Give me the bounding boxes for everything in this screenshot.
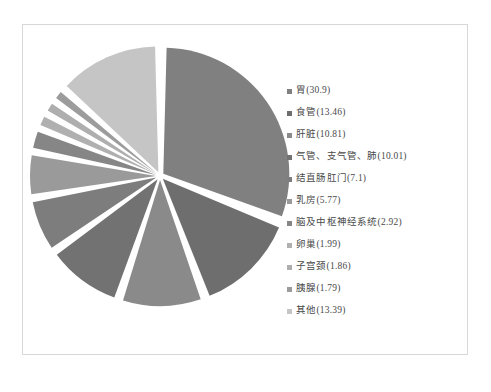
legend-swatch-icon xyxy=(287,221,292,226)
legend-item[interactable]: 子宫颈(1.86) xyxy=(287,256,467,278)
legend-item[interactable]: 气管、支气管、肺(10.01) xyxy=(287,146,467,168)
legend-item-label: 结直肠肛门(7.1) xyxy=(296,174,366,184)
legend-item-label: 胰腺(1.79) xyxy=(296,284,341,294)
legend-item[interactable]: 胰腺(1.79) xyxy=(287,278,467,300)
legend-swatch-icon xyxy=(287,89,292,94)
legend-item-label: 卵巢(1.99) xyxy=(296,240,341,250)
chart-legend: 胃(30.9)食管(13.46)肝脏(10.81)气管、支气管、肺(10.01)… xyxy=(287,80,467,322)
legend-swatch-icon xyxy=(287,111,292,116)
legend-swatch-icon xyxy=(287,243,292,248)
legend-item-label: 气管、支气管、肺(10.01) xyxy=(296,152,407,162)
legend-swatch-icon xyxy=(287,177,292,182)
legend-item[interactable]: 脑及中枢神经系统(2.92) xyxy=(287,212,467,234)
legend-swatch-icon xyxy=(287,199,292,204)
legend-item-label: 乳房(5.77) xyxy=(296,196,341,206)
legend-item-label: 其他(13.39) xyxy=(296,306,346,316)
legend-swatch-icon xyxy=(287,309,292,314)
figure-caption xyxy=(0,378,491,392)
legend-swatch-icon xyxy=(287,133,292,138)
legend-swatch-icon xyxy=(287,287,292,292)
legend-item[interactable]: 肝脏(10.81) xyxy=(287,124,467,146)
legend-item-label: 胃(30.9) xyxy=(296,86,330,96)
pie-slices-group xyxy=(27,43,293,309)
legend-item-label: 子宫颈(1.86) xyxy=(296,262,351,272)
legend-item-label: 食管(13.46) xyxy=(296,108,346,118)
legend-item-label: 脑及中枢神经系统(2.92) xyxy=(296,218,402,228)
legend-swatch-icon xyxy=(287,265,292,270)
legend-item[interactable]: 卵巢(1.99) xyxy=(287,234,467,256)
legend-swatch-icon xyxy=(287,155,292,160)
legend-item[interactable]: 其他(13.39) xyxy=(287,300,467,322)
legend-item[interactable]: 结直肠肛门(7.1) xyxy=(287,168,467,190)
legend-item-label: 肝脏(10.81) xyxy=(296,130,346,140)
figure-frame: 胃(30.9)食管(13.46)肝脏(10.81)气管、支气管、肺(10.01)… xyxy=(22,24,468,355)
legend-item[interactable]: 乳房(5.77) xyxy=(287,190,467,212)
legend-item[interactable]: 食管(13.46) xyxy=(287,102,467,124)
legend-item[interactable]: 胃(30.9) xyxy=(287,80,467,102)
pie-chart: 胃(30.9)食管(13.46)肝脏(10.81)气管、支气管、肺(10.01)… xyxy=(23,25,467,354)
